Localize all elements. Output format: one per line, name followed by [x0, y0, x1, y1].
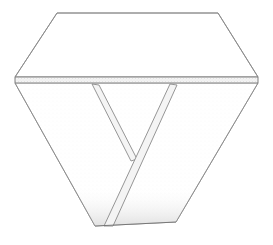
bottom-gradient-shading — [15, 83, 258, 226]
top-face — [15, 13, 258, 77]
mid-band-stipple — [15, 78, 258, 84]
figure-canvas — [0, 0, 273, 245]
line-drawing-figure — [0, 0, 273, 245]
figure-group — [15, 13, 258, 226]
